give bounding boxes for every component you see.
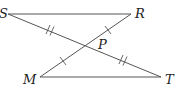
segment-st [8,14,161,77]
label-t: T [165,72,175,87]
label-p: P [97,37,107,52]
single-tick-mp [60,57,66,65]
double-tick-sp [46,25,54,36]
label-m: M [22,72,37,87]
label-r: R [134,6,145,21]
segment-mr [40,14,131,77]
label-s: S [0,6,8,21]
double-tick-pt [119,55,127,66]
single-tick-rp [105,26,111,34]
geometry-diagram: S R P M T [0,0,182,90]
